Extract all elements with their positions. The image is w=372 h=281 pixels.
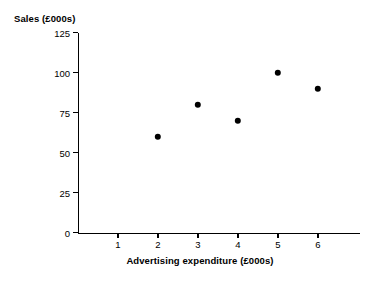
y-tick-mark <box>73 152 78 153</box>
data-point <box>275 69 281 75</box>
x-tick-label: 5 <box>275 239 280 250</box>
y-tick-mark <box>73 72 78 73</box>
x-tick-label: 3 <box>195 239 200 250</box>
y-tick-mark <box>73 192 78 193</box>
y-tick-label: 75 <box>59 107 70 118</box>
y-tick-mark <box>73 112 78 113</box>
scatter-chart: Sales (£000s) Advertising expenditure (£… <box>0 0 372 281</box>
data-point <box>195 101 201 107</box>
y-tick-label: 25 <box>59 187 70 198</box>
y-tick-label: 50 <box>59 147 70 158</box>
x-tick-mark <box>117 233 118 238</box>
x-tick-mark <box>277 233 278 238</box>
x-tick-label: 2 <box>155 239 160 250</box>
x-tick-mark <box>317 233 318 238</box>
y-tick-label: 100 <box>54 67 70 78</box>
data-point <box>235 117 241 123</box>
y-tick-label: 0 <box>65 227 70 238</box>
x-tick-label: 4 <box>235 239 240 250</box>
x-tick-mark <box>237 233 238 238</box>
x-axis-title: Advertising expenditure (£000s) <box>0 255 372 266</box>
x-tick-mark <box>197 233 198 238</box>
y-tick-mark <box>73 32 78 33</box>
y-tick-label: 125 <box>54 27 70 38</box>
y-axis-line <box>78 33 79 233</box>
y-axis-title: Sales (£000s) <box>14 13 76 24</box>
y-tick-mark <box>73 232 78 233</box>
data-point <box>315 85 321 91</box>
x-tick-label: 1 <box>115 239 120 250</box>
x-tick-mark <box>157 233 158 238</box>
x-tick-label: 6 <box>315 239 320 250</box>
data-point <box>155 133 161 139</box>
